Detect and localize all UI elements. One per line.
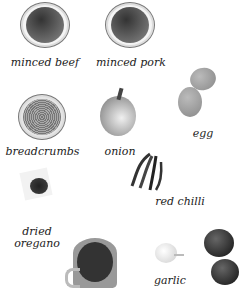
label-breadcrumbs: breadcrumbs — [5, 146, 80, 158]
onion-icon — [100, 96, 136, 136]
label-red-chilli: red chilli — [150, 196, 210, 208]
minced-beef-plate-icon — [20, 2, 70, 48]
label-minced-pork: minced pork — [94, 57, 168, 69]
breadcrumbs-bowl-icon — [18, 94, 66, 140]
minced-pork-plate-icon — [105, 2, 155, 48]
label-oregano: oregano — [8, 238, 66, 250]
label-garlic: garlic — [150, 275, 190, 287]
tomato-icon-2 — [211, 259, 239, 285]
garlic-bulb-icon — [155, 243, 177, 263]
egg-icon-2 — [178, 87, 202, 117]
tomato-icon — [204, 229, 234, 257]
red-chillies-icon — [128, 150, 168, 192]
label-minced-beef: minced beef — [10, 57, 80, 69]
oregano-pile-icon — [30, 178, 48, 194]
label-egg: egg — [178, 128, 228, 140]
